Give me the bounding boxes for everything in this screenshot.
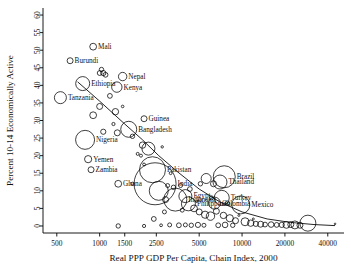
data-point xyxy=(108,93,113,98)
x-tick-label: 500 xyxy=(51,239,62,248)
y-tick-label: 5 xyxy=(33,206,42,210)
data-point-ghana xyxy=(115,180,122,187)
data-point-indonesia xyxy=(164,188,187,211)
y-tick-label: 10 xyxy=(33,187,42,195)
data-point xyxy=(114,130,120,136)
data-point xyxy=(168,223,172,227)
data-point xyxy=(101,129,106,134)
y-axis-title: Percent 10-14 Economically Active xyxy=(5,55,15,186)
data-point xyxy=(176,223,181,228)
data-point-ethiopia xyxy=(76,77,90,91)
chart-figure: 0510152025303540455055605001000150025005… xyxy=(0,0,351,272)
data-point xyxy=(116,224,120,228)
data-point xyxy=(201,174,211,184)
data-point-pakistan xyxy=(140,157,166,183)
data-point xyxy=(139,154,142,157)
data-point-yemen xyxy=(85,156,92,163)
data-point xyxy=(183,223,187,227)
point-label-india: India xyxy=(178,180,194,188)
data-point xyxy=(142,224,145,227)
x-tick-label: 10000 xyxy=(233,239,252,248)
x-axis-title: Real PPP GDP Per Capita, Chain Index, 20… xyxy=(109,253,277,263)
data-point xyxy=(252,218,254,220)
point-label-burundi: Burundi xyxy=(75,57,99,65)
y-tick-label: 25 xyxy=(33,134,42,142)
data-point xyxy=(189,223,193,227)
point-label-ghana: Ghana xyxy=(123,180,143,188)
data-point xyxy=(216,223,221,228)
data-point xyxy=(238,214,240,216)
data-point xyxy=(222,222,228,228)
point-label-pakistan: Pakistan xyxy=(167,166,192,174)
data-point xyxy=(334,223,336,225)
data-point xyxy=(206,212,214,220)
point-labels-group: MaliBurundiNepalEthiopiaKenyaTanzaniaGui… xyxy=(68,43,274,209)
data-point xyxy=(97,103,103,109)
data-point-bangladesh xyxy=(121,121,137,137)
point-label-tanzania: Tanzania xyxy=(68,94,95,102)
axes-group: 0510152025303540455055605001000150025005… xyxy=(33,8,345,248)
y-tick-label: 35 xyxy=(33,99,42,107)
data-point xyxy=(161,146,163,148)
data-point xyxy=(202,223,206,227)
y-tick-label: 40 xyxy=(33,81,42,89)
y-tick-label: 30 xyxy=(33,117,42,125)
point-label-nigeria: Nigeria xyxy=(96,136,118,144)
point-label-zambia: Zambia xyxy=(96,166,119,174)
x-tick-label: 1000 xyxy=(92,239,107,248)
data-point xyxy=(121,105,124,108)
data-point xyxy=(268,222,274,228)
point-label-mexico: Mexico xyxy=(251,201,273,209)
data-point-mali xyxy=(90,43,97,50)
x-tick-label: 20000 xyxy=(276,239,295,248)
y-tick-label: 0 xyxy=(33,224,42,228)
x-tick-label: 2500 xyxy=(149,239,164,248)
data-point-guinea xyxy=(141,116,147,122)
point-label-mali: Mali xyxy=(98,43,112,51)
data-point xyxy=(112,122,115,125)
y-tick-label: 20 xyxy=(33,152,42,160)
point-label-guinea: Guinea xyxy=(149,115,171,123)
y-tick-label: 45 xyxy=(33,64,42,72)
data-point-nigeria xyxy=(76,130,95,149)
data-point xyxy=(201,211,208,218)
y-tick-label: 15 xyxy=(33,169,42,177)
x-tick-label: 1500 xyxy=(117,239,132,248)
y-tick-label: 50 xyxy=(33,46,42,54)
y-tick-label: 55 xyxy=(33,29,42,37)
data-point-burundi xyxy=(67,58,73,64)
data-point xyxy=(195,222,200,227)
y-tick-label: 60 xyxy=(33,11,42,19)
data-point xyxy=(136,152,139,155)
data-point xyxy=(231,223,235,227)
data-point-zambia xyxy=(88,167,94,173)
point-label-bangladesh: Bangladesh xyxy=(138,126,172,134)
data-point xyxy=(198,182,202,186)
data-point xyxy=(112,109,118,115)
data-point xyxy=(220,212,226,218)
data-point xyxy=(149,181,168,200)
x-tick-label: 5000 xyxy=(192,239,207,248)
data-point-tanzania xyxy=(54,92,66,104)
scatter-plot-canvas: 0510152025303540455055605001000150025005… xyxy=(0,0,351,272)
data-point xyxy=(274,223,279,228)
point-label-yemen: Yemen xyxy=(93,156,113,164)
point-label-nepal: Nepal xyxy=(128,73,145,81)
data-point xyxy=(162,210,166,214)
x-tick-label: 40000 xyxy=(319,239,338,248)
data-point xyxy=(142,142,155,155)
point-label-thailand: Thailand xyxy=(228,178,254,186)
point-label-kenya: Kenya xyxy=(124,84,144,92)
point-label-colombia: Colombia xyxy=(222,200,251,208)
data-point xyxy=(90,112,97,119)
point-label-ethiopia: Ethiopia xyxy=(91,80,116,88)
data-point xyxy=(151,217,156,222)
data-point xyxy=(160,224,163,227)
data-point-nepal xyxy=(118,72,126,80)
